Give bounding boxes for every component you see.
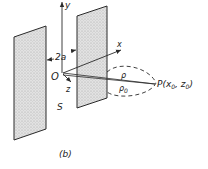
- rho-label: ρ: [121, 71, 126, 80]
- origin-label: O: [51, 71, 59, 82]
- gap-arrow-left: [47, 59, 54, 60]
- x-axis-label: x: [116, 40, 122, 49]
- z-axis-label: z: [65, 85, 71, 94]
- y-axis-label: y: [64, 0, 71, 10]
- figure-caption: (b): [59, 149, 72, 159]
- slit-diffraction-diagram: y 2a O x z S ρ ρ0 P(x0, z0) (b): [0, 0, 208, 169]
- slit-label: S: [57, 102, 63, 112]
- point-p-label: P(x0, z0): [157, 79, 193, 90]
- gap-arrow-right: [71, 50, 76, 51]
- gap-label: 2a: [55, 52, 66, 62]
- left-plate: [14, 26, 46, 140]
- rho0-label: ρ0: [119, 84, 128, 94]
